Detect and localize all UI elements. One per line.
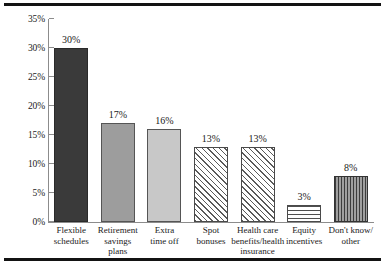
bar-value-label: 17% (93, 109, 143, 120)
bar[interactable] (334, 176, 368, 222)
x-axis-label-line: benefits/health (231, 236, 284, 247)
bar[interactable] (241, 147, 275, 222)
x-axis-label-line: Flexible (45, 225, 98, 236)
x-axis-label-line: Health care (231, 225, 284, 236)
x-axis-label-line: schedules (45, 236, 98, 247)
x-axis-label-line: Don't know/ (324, 225, 377, 236)
x-axis-label-line: bonuses (185, 236, 238, 247)
y-tick-35pct: 35% (0, 13, 54, 25)
chart-figure: 0%5%10%15%20%25%30%35% 30%17%16%13%13%3%… (0, 0, 385, 267)
y-tick-15pct: 15% (0, 129, 54, 141)
y-tick-10pct: 10% (0, 158, 54, 170)
bar-value-label: 3% (279, 191, 329, 202)
x-axis-label-line: Extra (138, 225, 191, 236)
x-axis-label-line: time off (138, 236, 191, 247)
x-axis-label-line: Equity (278, 225, 331, 236)
bar-value-label: 16% (139, 115, 189, 126)
x-axis-label: Health carebenefits/healthinsurance (231, 225, 284, 257)
bar[interactable] (101, 123, 135, 222)
bar-value-label: 13% (233, 133, 283, 144)
x-axis-label: Extratime off (138, 225, 191, 246)
x-axis-label: Don't know/other (324, 225, 377, 246)
x-axis-label-line: savings (92, 236, 145, 247)
x-axis-label: Spotbonuses (185, 225, 238, 246)
x-axis-label-line: insurance (231, 246, 284, 257)
x-axis-label: Equityincentives (278, 225, 331, 246)
x-axis-label-line: plans (92, 246, 145, 257)
x-axis-label-line: other (324, 236, 377, 247)
bar-slot: 3% (287, 19, 321, 222)
bar-slot: 8% (334, 19, 368, 222)
bar-series: 30%17%16%13%13%3%8% (48, 19, 374, 222)
bar[interactable] (287, 205, 321, 222)
bar[interactable] (54, 48, 88, 222)
bar-value-label: 30% (46, 34, 96, 45)
bar[interactable] (194, 147, 228, 222)
x-axis-labels: FlexibleschedulesRetirementsavingsplansE… (48, 225, 374, 267)
x-axis-baseline (48, 222, 374, 223)
bar-slot: 13% (194, 19, 228, 222)
top-rule (4, 3, 381, 6)
bar-slot: 13% (241, 19, 275, 222)
y-tick-25pct: 25% (0, 71, 54, 83)
bar[interactable] (147, 129, 181, 222)
bar-value-label: 8% (326, 162, 376, 173)
y-tick-5pct: 5% (0, 187, 54, 199)
x-axis-label: Flexibleschedules (45, 225, 98, 246)
x-axis-label: Retirementsavingsplans (92, 225, 145, 257)
plot-area: 0%5%10%15%20%25%30%35% 30%17%16%13%13%3%… (0, 9, 385, 259)
x-axis-label-line: Spot (185, 225, 238, 236)
bar-value-label: 13% (186, 133, 236, 144)
y-tick-20pct: 20% (0, 100, 54, 112)
bar-slot: 16% (147, 19, 181, 222)
bar-slot: 17% (101, 19, 135, 222)
x-axis-label-line: incentives (278, 236, 331, 247)
x-axis-label-line: Retirement (92, 225, 145, 236)
bar-slot: 30% (54, 19, 88, 222)
